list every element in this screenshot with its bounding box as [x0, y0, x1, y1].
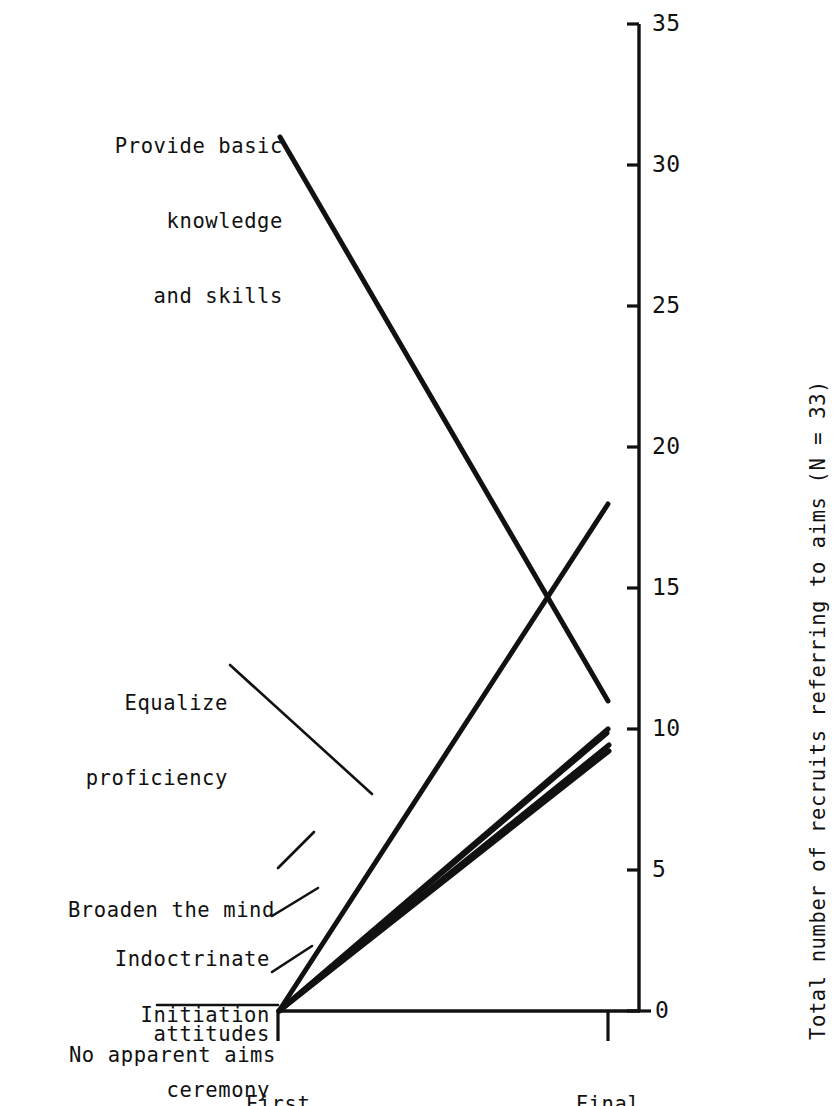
- leader-line-indoctrinate-attitudes: [272, 888, 318, 916]
- series-line-no-apparent-aims: [279, 751, 609, 1011]
- x-tick-label-first-interview: First Interview: [180, 1042, 376, 1106]
- x-tick-label-line: First: [180, 1092, 376, 1106]
- y-axis-title: Total number of recruits referring to ai…: [806, 380, 830, 1040]
- y-tick-label-35: 35: [652, 12, 680, 35]
- series-label-line: and skills: [0, 284, 283, 309]
- y-tick-label-20: 20: [652, 435, 680, 458]
- x-tick-label-line: Final: [510, 1092, 706, 1106]
- series-label-line: Equalize: [0, 691, 228, 716]
- leader-line-broaden-the-mind: [278, 832, 314, 868]
- series-line-provide-basic-knowledge-and-skills: [280, 137, 608, 701]
- series-line-equalize-proficiency: [279, 504, 608, 1011]
- leader-line-equalize-proficiency: [230, 665, 372, 794]
- series-label-line: proficiency: [0, 766, 228, 791]
- y-tick-label-5: 5: [652, 858, 666, 881]
- chart-root: Provide basic knowledge and skills Equal…: [0, 0, 835, 1106]
- series-label-provide-basic-knowledge-and-skills: Provide basic knowledge and skills: [0, 84, 283, 359]
- series-label-line: Provide basic: [0, 134, 283, 159]
- series-label-equalize-proficiency: Equalize proficiency: [0, 641, 228, 841]
- y-tick-label-30: 30: [652, 153, 680, 176]
- y-tick-label-10: 10: [652, 717, 680, 740]
- x-tick-label-final-interview: Final Interview: [510, 1042, 706, 1106]
- series-label-line: knowledge: [0, 209, 283, 234]
- y-tick-label-0: 0: [655, 999, 669, 1022]
- y-tick-label-25: 25: [652, 294, 680, 317]
- y-tick-label-15: 15: [652, 576, 680, 599]
